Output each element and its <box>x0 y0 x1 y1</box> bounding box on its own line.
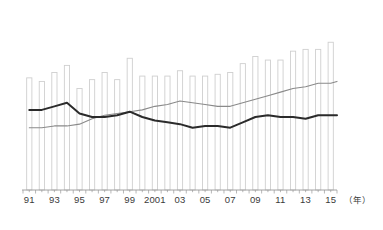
x-axis-tick-label: 93 <box>49 194 60 205</box>
bar <box>64 65 69 190</box>
bar <box>52 73 57 190</box>
x-axis-tick-label: 95 <box>74 194 85 205</box>
bar <box>115 80 120 190</box>
x-axis-tick-label: 09 <box>250 194 261 205</box>
bar <box>140 76 145 190</box>
bar <box>102 73 107 190</box>
bar <box>77 89 82 190</box>
bar <box>290 51 295 190</box>
x-axis-tick-label: 15 <box>325 194 336 205</box>
x-axis-tick-label: 11 <box>275 194 285 205</box>
bar <box>165 76 170 190</box>
x-axis-tick-label: 97 <box>99 194 110 205</box>
x-axis-tick-label: 03 <box>175 194 186 205</box>
bar <box>27 78 32 190</box>
bar <box>253 57 258 191</box>
x-tick-labels-group: 9193959799200103050709111315 <box>24 194 336 205</box>
bar <box>39 81 44 190</box>
bar <box>89 80 94 190</box>
bar <box>190 76 195 190</box>
x-axis-tick-label: 91 <box>24 194 35 205</box>
bar <box>265 60 270 190</box>
bar <box>127 58 132 190</box>
bar <box>215 74 220 190</box>
x-axis-tick-label: 07 <box>225 194 236 205</box>
x-axis-tick-label: 13 <box>300 194 311 205</box>
bar <box>240 64 245 190</box>
chart-svg: 9193959799200103050709111315 （年） <box>0 0 383 230</box>
x-axis-unit-label: （年） <box>344 195 371 205</box>
bar <box>177 71 182 190</box>
bar <box>316 49 321 190</box>
bar <box>152 76 157 190</box>
bar <box>278 60 283 190</box>
x-ticks-group <box>23 190 337 194</box>
bar <box>228 73 233 190</box>
chart-container: 9193959799200103050709111315 （年） <box>0 0 383 230</box>
bar <box>203 76 208 190</box>
x-axis-tick-label: 99 <box>124 194 135 205</box>
x-axis-tick-label: 2001 <box>144 194 166 205</box>
x-axis-tick-label: 05 <box>200 194 211 205</box>
